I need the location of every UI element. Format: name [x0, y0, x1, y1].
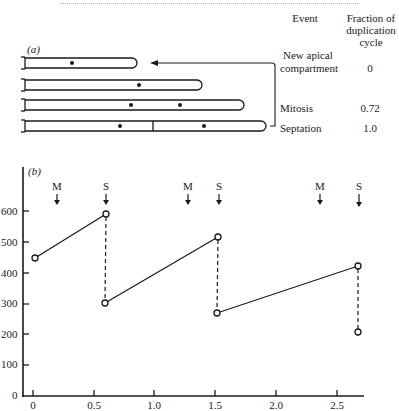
data-point — [102, 300, 108, 306]
arrow-heads — [54, 200, 362, 207]
data-point — [355, 263, 361, 269]
x-ticks — [33, 390, 337, 396]
chart-plot — [0, 0, 399, 411]
arrow-down-icon — [54, 200, 60, 205]
arrow-down-icon — [317, 200, 323, 205]
y-ticks — [23, 211, 29, 365]
data-point — [32, 255, 38, 261]
event-arrows — [57, 194, 359, 203]
data-point — [103, 211, 109, 217]
arrow-down-icon — [216, 200, 222, 205]
data-point — [355, 329, 361, 335]
data-point — [215, 234, 221, 240]
septation-drops — [105, 217, 358, 329]
arrow-down-icon — [185, 200, 191, 205]
arrow-down-icon — [103, 200, 109, 205]
growth-lines — [35, 214, 358, 313]
data-point — [214, 310, 220, 316]
arrow-down-icon — [356, 202, 362, 207]
